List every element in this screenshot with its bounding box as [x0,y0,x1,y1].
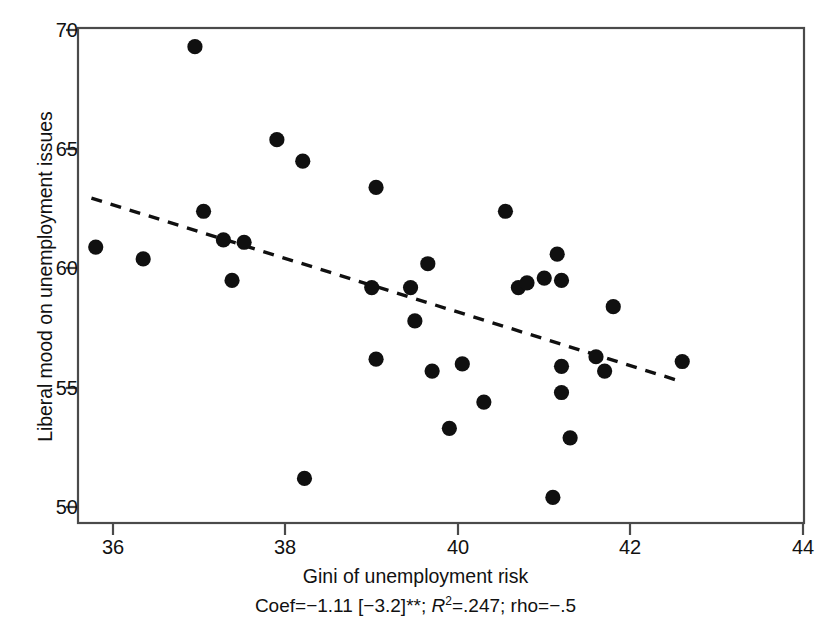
rho-equals: = [538,595,549,616]
rho-value: −.5 [549,595,576,616]
scatter-plot-figure: Liberal mood on unemployment issues 70 6… [0,0,831,626]
coef-label: Coef [255,595,295,616]
x-tick-label: 42 [595,537,665,557]
statistics-annotation: Coef=−1.11 [−3.2]**; R2=.247; rho=−.5 [0,594,831,617]
x-tick-label: 38 [250,537,320,557]
r2-value: .247 [463,595,500,616]
x-tick-label: 44 [768,537,831,557]
x-axis-tick-labels: 36 38 40 42 44 [0,0,831,626]
r2-equals: = [452,595,463,616]
t-stat: [−3.2]** [358,595,421,616]
coef-value: −1.11 [306,595,353,616]
x-tick-label: 36 [78,537,148,557]
rho-label: rho [511,595,538,616]
r2-exponent: 2 [445,594,452,608]
coef-equals: = [295,595,306,616]
caption-sep2: ; [500,595,511,616]
r2-label: R [432,595,446,616]
x-axis-title: Gini of unemployment risk [0,565,831,588]
caption-sep1: ; [421,595,432,616]
x-tick-label: 40 [423,537,493,557]
